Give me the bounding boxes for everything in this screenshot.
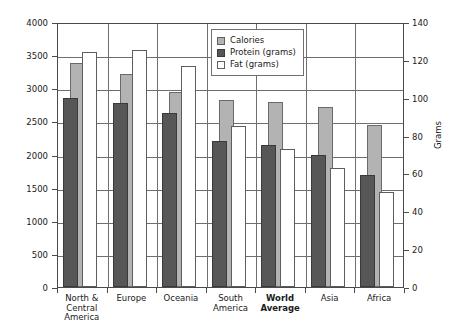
y-tick-label-right: 80 — [412, 133, 423, 142]
y-tick-label-right: 100 — [412, 95, 428, 104]
x-tick — [354, 288, 355, 293]
legend-item-calories: Calories — [217, 35, 296, 46]
figure-caption — [28, 325, 428, 334]
y-tick-right — [404, 250, 409, 251]
y-tick-right — [404, 23, 409, 24]
x-category-label: SouthAmerica — [206, 294, 256, 313]
bar-group — [306, 24, 356, 287]
y-tick-label-left: 500 — [14, 251, 48, 260]
legend-item-protein: Protein (grams) — [217, 47, 296, 58]
chart-legend: Calories Protein (grams) Fat (grams) — [211, 29, 304, 76]
legend-swatch-protein — [217, 49, 225, 57]
bar-fat — [132, 50, 147, 287]
y-tick-label-left: 2500 — [14, 118, 48, 127]
x-tick — [206, 288, 207, 293]
y-axis-title-right: Grams — [433, 121, 443, 149]
y-tick-label-left: 1000 — [14, 218, 48, 227]
y-tick-left — [52, 222, 57, 223]
legend-swatch-fat — [217, 61, 225, 69]
x-tick — [305, 288, 306, 293]
y-tick-label-right: 140 — [412, 19, 428, 28]
y-tick-label-right: 40 — [412, 208, 423, 217]
x-category-label: Europe — [107, 294, 157, 304]
y-tick-label-left: 0 — [14, 284, 48, 293]
x-category-label-line: America — [57, 313, 107, 323]
bar-protein — [261, 145, 276, 287]
bar-protein — [162, 113, 177, 287]
bar-protein — [63, 98, 78, 287]
legend-swatch-calories — [217, 37, 225, 45]
y-tick-label-left: 3500 — [14, 52, 48, 61]
y-tick-right — [404, 212, 409, 213]
y-tick-label-right: 120 — [412, 57, 428, 66]
x-category-label-line: America — [206, 304, 256, 314]
x-category-label: Africa — [354, 294, 404, 304]
x-category-label-line: Oceania — [156, 294, 206, 304]
y-tick-left — [52, 255, 57, 256]
bar-group — [157, 24, 207, 287]
x-category-label: Oceania — [156, 294, 206, 304]
bar-fat — [231, 126, 246, 287]
y-tick-label-left: 1500 — [14, 185, 48, 194]
y-tick-left — [52, 156, 57, 157]
y-tick-right — [404, 137, 409, 138]
x-category-label: WorldAverage — [255, 294, 305, 313]
x-tick — [404, 288, 405, 293]
legend-item-fat: Fat (grams) — [217, 59, 296, 70]
bar-fat — [82, 52, 97, 287]
y-tick-label-right: 0 — [412, 284, 417, 293]
y-tick-left — [52, 89, 57, 90]
bar-fat — [330, 168, 345, 287]
x-tick — [107, 288, 108, 293]
legend-label-fat: Fat (grams) — [230, 60, 279, 69]
x-category-label-line: Average — [255, 304, 305, 314]
bar-group — [58, 24, 108, 287]
x-category-label: Asia — [305, 294, 355, 304]
y-tick-label-left: 2000 — [14, 152, 48, 161]
y-tick-label-left: 4000 — [14, 19, 48, 28]
legend-label-calories: Calories — [230, 36, 264, 45]
x-tick — [255, 288, 256, 293]
y-tick-label-left: 3000 — [14, 85, 48, 94]
y-tick-left — [52, 189, 57, 190]
x-tick — [57, 288, 58, 293]
bar-protein — [212, 141, 227, 287]
x-tick — [156, 288, 157, 293]
bar-fat — [280, 149, 295, 287]
y-tick-right — [404, 174, 409, 175]
bar-fat — [379, 192, 394, 287]
legend-label-protein: Protein (grams) — [230, 48, 296, 57]
figure: Calories Grams 0500100015002000250030003… — [0, 0, 453, 334]
bar-group — [108, 24, 158, 287]
y-tick-left — [52, 23, 57, 24]
bar-protein — [360, 175, 375, 287]
y-tick-label-right: 60 — [412, 170, 423, 179]
x-category-label-line: Asia — [305, 294, 355, 304]
bar-protein — [113, 103, 128, 287]
y-tick-left — [52, 56, 57, 57]
bar-fat — [181, 66, 196, 287]
bar-group — [355, 24, 405, 287]
x-category-label: North &CentralAmerica — [57, 294, 107, 323]
bar-protein — [311, 155, 326, 288]
y-tick-right — [404, 61, 409, 62]
x-category-label-line: Europe — [107, 294, 157, 304]
y-tick-right — [404, 99, 409, 100]
y-tick-left — [52, 122, 57, 123]
x-category-label-line: Africa — [354, 294, 404, 304]
y-tick-label-right: 20 — [412, 246, 423, 255]
